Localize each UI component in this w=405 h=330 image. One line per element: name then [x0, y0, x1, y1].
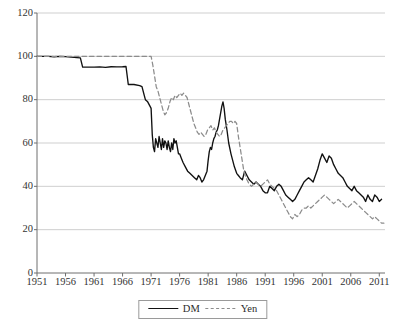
y-tick-label-40: 40: [3, 181, 33, 191]
legend-label-yen: Yen: [241, 303, 257, 315]
chart-container: 020406080100120 195119561961196619711976…: [0, 0, 405, 330]
axis-ticks: [34, 13, 379, 277]
y-tick-label-100: 100: [3, 51, 33, 61]
x-axis-tick-labels: 1951195619611966197119761981198619911996…: [0, 276, 405, 292]
x-tick-label-2001: 2001: [312, 276, 333, 288]
legend-item-dm[interactable]: DM: [148, 303, 200, 315]
x-tick-label-1971: 1971: [141, 276, 162, 288]
series-line-yen: [37, 56, 384, 223]
x-tick-label-1966: 1966: [112, 276, 133, 288]
y-tick-label-20: 20: [3, 224, 33, 234]
x-tick-label-1951: 1951: [27, 276, 48, 288]
y-tick-label-120: 120: [3, 8, 33, 18]
x-tick-label-2011: 2011: [369, 276, 390, 288]
legend-swatch-dashed-line-icon: [206, 305, 236, 313]
legend-label-dm: DM: [183, 303, 200, 315]
chart-legend: DM Yen: [138, 300, 267, 319]
series-line-dm: [37, 56, 382, 201]
x-tick-label-1976: 1976: [169, 276, 190, 288]
x-tick-label-2006: 2006: [340, 276, 361, 288]
x-tick-label-1961: 1961: [84, 276, 105, 288]
x-tick-label-1991: 1991: [255, 276, 276, 288]
x-tick-label-1981: 1981: [198, 276, 219, 288]
x-tick-label-1956: 1956: [55, 276, 76, 288]
x-tick-label-1986: 1986: [226, 276, 247, 288]
y-tick-label-60: 60: [3, 138, 33, 148]
y-tick-label-80: 80: [3, 94, 33, 104]
gridlines: [37, 13, 385, 230]
x-tick-label-1996: 1996: [283, 276, 304, 288]
legend-swatch-solid-line-icon: [148, 305, 178, 313]
data-series: [37, 56, 384, 223]
legend-item-yen[interactable]: Yen: [206, 303, 257, 315]
